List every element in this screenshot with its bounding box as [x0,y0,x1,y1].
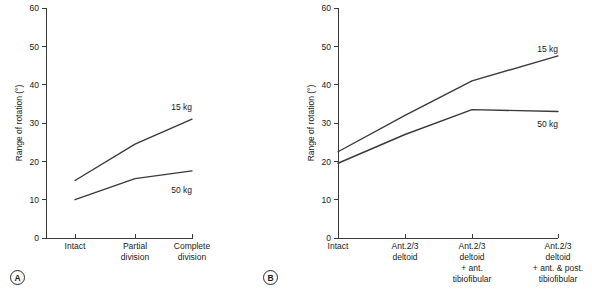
x-tick-label: Ant.2/3deltoid+ ant.tibiofibular [453,241,492,284]
series-line-15-kg [75,119,192,180]
chart-svg-b: 0102030405060Range of rotation (°)Intact… [296,0,592,298]
x-tick-label: Ant.2/3deltoid [392,241,419,262]
y-tick-label: 0 [34,233,39,243]
x-tick-label: Partialdivision [121,241,150,262]
y-axis-title: Range of rotation (°) [14,85,24,162]
y-tick-label: 20 [30,157,40,167]
y-tick-label: 30 [30,118,40,128]
series-label-50-kg: 50 kg [171,185,192,195]
x-tick-label: Intact [328,241,349,251]
x-tick-label: Completedivision [174,241,211,262]
figure-container: 0102030405060Range of rotation (°)Intact… [0,0,592,298]
y-tick-label: 50 [322,42,332,52]
series-line-50-kg [338,110,558,164]
x-tick-label: Ant.2/3deltoid+ ant. & post.tibiofibular [533,241,583,284]
y-tick-label: 60 [30,3,40,13]
series-label-15-kg: 15 kg [537,44,558,54]
series-line-15-kg [338,56,558,152]
y-tick-label: 40 [30,80,40,90]
y-tick-label: 10 [322,195,332,205]
y-tick-label: 10 [30,195,40,205]
y-tick-label: 30 [322,118,332,128]
y-tick-label: 50 [30,42,40,52]
y-tick-label: 40 [322,80,332,90]
series-label-50-kg: 50 kg [537,119,558,129]
y-axis-title: Range of rotation (°) [306,85,316,162]
panel-tag-b: B [263,270,278,285]
y-tick-label: 60 [322,3,332,13]
chart-svg-a: 0102030405060Range of rotation (°)Intact… [0,0,296,298]
x-tick-label: Intact [65,241,86,251]
chart-panel-b: 0102030405060Range of rotation (°)Intact… [296,0,592,298]
panel-tag-a: A [10,270,25,285]
series-label-15-kg: 15 kg [171,102,192,112]
chart-panel-a: 0102030405060Range of rotation (°)Intact… [0,0,296,298]
y-tick-label: 20 [322,157,332,167]
